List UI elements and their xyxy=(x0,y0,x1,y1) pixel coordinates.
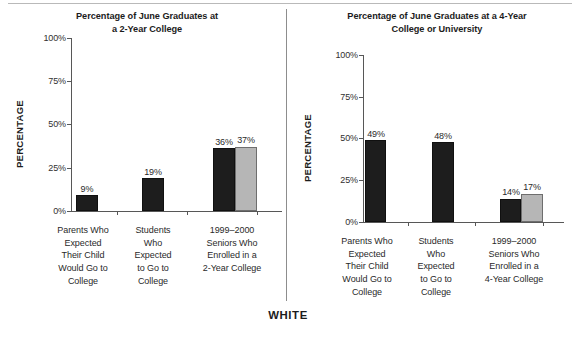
category-label: Students Who Expected to Go to College xyxy=(123,224,183,288)
bar xyxy=(500,199,521,222)
bar-value-label: 19% xyxy=(133,167,173,177)
category-label-line: Expected xyxy=(406,260,466,273)
y-axis-label: PERCENTAGE xyxy=(14,100,25,168)
bar-value-label: 49% xyxy=(356,129,396,139)
figure-group-label: WHITE xyxy=(0,309,576,321)
category-label-line: Enrolled in a xyxy=(474,260,554,273)
y-tick-100 xyxy=(67,38,71,39)
category-label: 1999–2000 Seniors Who Enrolled in a 2-Ye… xyxy=(192,224,272,275)
y-axis-label: PERCENTAGE xyxy=(302,114,313,182)
y-tick-label-0: 0% xyxy=(53,206,66,216)
chart-title-line-1: Percentage of June Graduates at a 4-Year xyxy=(306,10,568,23)
y-tick-75 xyxy=(359,97,363,98)
y-tick-0 xyxy=(359,222,363,223)
y-tick-75 xyxy=(67,81,71,82)
bar-value-label: 17% xyxy=(512,182,552,192)
x-tick-1 xyxy=(117,211,118,215)
y-tick-0 xyxy=(67,211,71,212)
x-tick-3 xyxy=(257,211,258,215)
category-label-line: Expected xyxy=(336,248,398,261)
y-tick-50 xyxy=(67,124,71,125)
category-label-line: 2-Year College xyxy=(192,262,272,275)
bar xyxy=(76,195,98,211)
category-label-line: Who xyxy=(123,237,183,250)
category-label-line: Who xyxy=(406,248,466,261)
category-label: Parents Who Expected Their Child Would G… xyxy=(336,235,398,299)
category-label-line: Enrolled in a xyxy=(192,249,272,262)
category-label-line: Seniors Who xyxy=(474,248,554,261)
x-tick-3 xyxy=(543,222,544,226)
chart-title: Percentage of June Graduates at a 4-Year… xyxy=(306,10,568,35)
y-tick-25 xyxy=(67,168,71,169)
x-axis-line xyxy=(363,222,564,223)
y-tick-25 xyxy=(359,180,363,181)
category-label-line: 1999–2000 xyxy=(192,224,272,237)
category-label-line: Seniors Who xyxy=(192,237,272,250)
chart-panel-two-year-college: Percentage of June Graduates at a 2-Year… xyxy=(0,0,288,338)
y-tick-100 xyxy=(359,55,363,56)
category-label-line: Their Child xyxy=(336,260,398,273)
category-label-line: Students xyxy=(123,224,183,237)
bar-value-label: 48% xyxy=(423,131,463,141)
chart-title: Percentage of June Graduates at a 2-Year… xyxy=(22,10,272,35)
category-label-line: Expected xyxy=(123,249,183,262)
plot-area: 100% 75% 50% 25% 0% 9% 19% 36% 37% xyxy=(71,38,282,211)
bar-value-label: 37% xyxy=(226,135,266,145)
x-tick-2 xyxy=(187,211,188,215)
bar xyxy=(365,140,386,222)
category-label-line: Their Child xyxy=(52,249,114,262)
y-tick-label-100: 100% xyxy=(335,50,358,60)
category-label-line: College xyxy=(336,286,398,299)
plot-area: 100% 75% 50% 25% 0% 49% 48% 14% 17% xyxy=(363,55,564,222)
category-label-line: Would Go to xyxy=(336,273,398,286)
category-label: Students Who Expected to Go to College xyxy=(406,235,466,299)
y-tick-label-0: 0% xyxy=(345,217,358,227)
y-tick-label-100: 100% xyxy=(43,33,66,43)
category-label-line: Would Go to xyxy=(52,262,114,275)
category-label-line: College xyxy=(52,275,114,288)
category-label-line: Students xyxy=(406,235,466,248)
category-label-line: 1999–2000 xyxy=(474,235,554,248)
y-axis-line xyxy=(363,55,364,223)
y-tick-label-75: 75% xyxy=(48,76,66,86)
x-tick-2 xyxy=(475,222,476,226)
category-label: 1999–2000 Seniors Who Enrolled in a 4-Ye… xyxy=(474,235,554,286)
chart-title-line-2: College or University xyxy=(306,23,568,36)
y-tick-label-25: 25% xyxy=(48,163,66,173)
bar xyxy=(142,178,164,211)
category-label-line: 4-Year College xyxy=(474,273,554,286)
category-label: Parents Who Expected Their Child Would G… xyxy=(52,224,114,288)
category-label-line: Expected xyxy=(52,237,114,250)
y-tick-label-75: 75% xyxy=(340,92,358,102)
category-label-line: Parents Who xyxy=(52,224,114,237)
category-label-line: to Go to xyxy=(406,273,466,286)
category-label-line: Parents Who xyxy=(336,235,398,248)
bar xyxy=(521,194,543,222)
chart-title-line-1: Percentage of June Graduates at xyxy=(22,10,272,23)
bar xyxy=(213,148,235,211)
bar xyxy=(432,142,454,222)
x-tick-1 xyxy=(408,222,409,226)
category-label-line: College xyxy=(123,275,183,288)
bar xyxy=(235,147,257,211)
chart-panel-four-year-college: Percentage of June Graduates at a 4-Year… xyxy=(288,0,576,338)
category-label-line: to Go to xyxy=(123,262,183,275)
category-label-line: College xyxy=(406,286,466,299)
bar-value-label: 9% xyxy=(67,184,107,194)
y-tick-label-50: 50% xyxy=(48,119,66,129)
y-tick-label-25: 25% xyxy=(340,175,358,185)
x-axis-line xyxy=(71,211,282,212)
